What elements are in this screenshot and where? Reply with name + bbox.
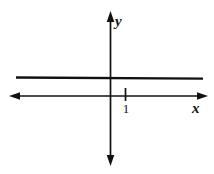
coordinate-plane-svg: [0, 0, 214, 174]
x-axis-tick-label-1: 1: [121, 102, 131, 115]
y-axis-label: y: [115, 14, 122, 29]
y-axis-up-arrowhead: [107, 11, 115, 22]
x-axis-label: x: [192, 101, 200, 116]
y-axis: [107, 11, 115, 166]
x-axis: [9, 92, 208, 100]
x-axis-right-arrowhead: [197, 92, 208, 100]
plotted-horizontal-line: [16, 78, 203, 79]
y-axis-down-arrowhead: [107, 155, 115, 166]
graph-figure: y x 1: [0, 0, 214, 174]
x-axis-left-arrowhead: [9, 92, 20, 100]
